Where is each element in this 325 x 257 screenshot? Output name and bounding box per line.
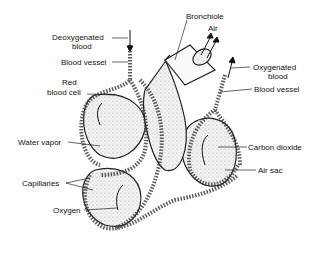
label-deoxygenated-line2: blood [72, 42, 92, 51]
label-red-blood-cell-line1: Red [62, 78, 77, 87]
alveoli-diagram [0, 0, 325, 257]
label-air: Air [208, 24, 218, 33]
label-red-blood-cell-line2: blood cell [47, 88, 81, 97]
label-air-sac: Air sac [258, 166, 282, 175]
label-blood-vessel-left: Blood vessel [61, 58, 106, 67]
label-capillaries: Capillaries [22, 179, 59, 188]
label-oxygen: Oxygen [53, 206, 81, 215]
label-blood-vessel-right: Blood vessel [254, 85, 299, 94]
label-carbon-dioxide: Carbon dioxide [248, 143, 302, 152]
label-bronchiole: Bronchiole [186, 12, 224, 21]
label-oxygenated-line2: blood [268, 72, 288, 81]
label-water-vapor: Water vapor [18, 138, 61, 147]
air-sacs [83, 55, 237, 226]
label-deoxygenated-line1: Deoxygenated [52, 33, 104, 42]
label-oxygenated-line1: Oxygenated [253, 63, 296, 72]
